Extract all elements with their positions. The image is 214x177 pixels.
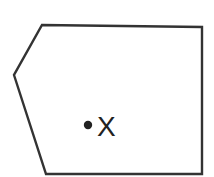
point-dot [84, 121, 92, 129]
diagram-svg [0, 0, 214, 177]
diagram-canvas: X [0, 0, 214, 177]
point-label: X [97, 113, 116, 141]
pentagon-shape [14, 25, 202, 174]
